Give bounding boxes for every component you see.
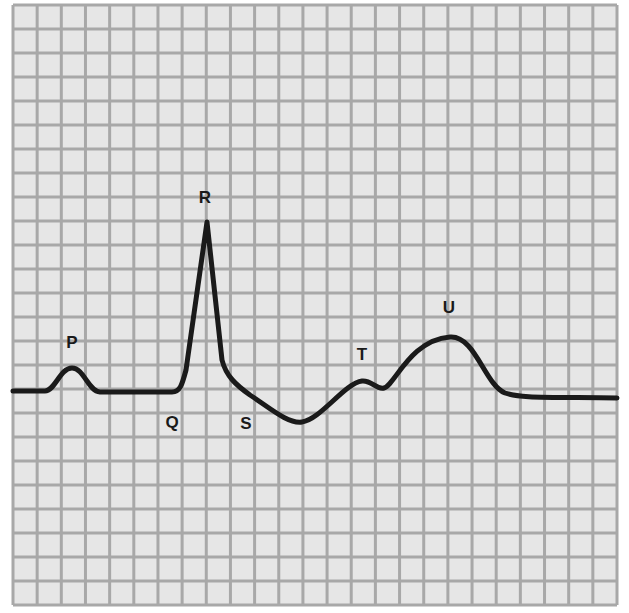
label-t-wave: T: [357, 345, 368, 364]
label-q-wave: Q: [165, 413, 178, 432]
grid-background: [13, 5, 617, 605]
label-p-wave: P: [66, 333, 77, 352]
label-u-wave: U: [443, 298, 455, 317]
ecg-diagram: P Q R S T U: [0, 0, 629, 613]
label-s-wave: S: [240, 414, 251, 433]
label-r-wave: R: [199, 188, 211, 207]
